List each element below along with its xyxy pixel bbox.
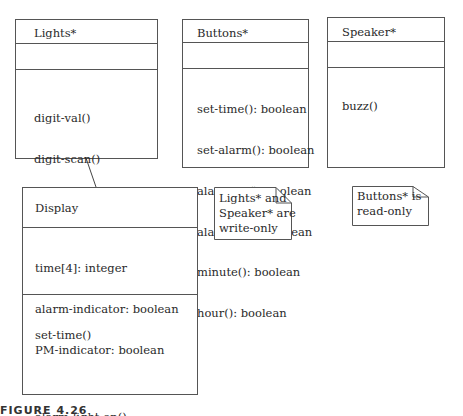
class-lights-operations-divider [16, 69, 157, 70]
operation: digit-val() [34, 112, 126, 126]
class-buttons-operations-divider [183, 68, 308, 69]
note-read-only-text: Buttons* is read-only [357, 189, 421, 219]
class-buttons-name: Buttons* [197, 26, 248, 40]
class-display-attributes-divider [23, 227, 197, 228]
operation: set-time() [35, 329, 127, 343]
attribute: time[4]: integer [35, 262, 179, 276]
note-write-only-text: Lights* and Speaker* are write-only [219, 191, 296, 236]
class-lights[interactable]: Lights* digit-val() digit-scan() alarm-o… [15, 19, 158, 159]
class-display-operations: set-time() alarm-light-on() alarm-light-… [35, 302, 127, 416]
operation: set-time(): boolean [197, 103, 314, 117]
class-speaker-operations: buzz() [342, 73, 378, 141]
figure-caption: FIGURE 4.26 [0, 404, 88, 416]
operation: buzz() [342, 100, 378, 114]
class-speaker[interactable]: Speaker* buzz() [327, 17, 445, 168]
class-display[interactable]: Display time[4]: integer alarm-indicator… [22, 187, 198, 395]
class-speaker-attributes-divider [328, 41, 444, 42]
class-lights-attributes-divider [16, 43, 157, 44]
class-speaker-name: Speaker* [342, 25, 396, 39]
operation-spacer [35, 370, 127, 384]
note-read-only[interactable]: Buttons* is read-only [352, 186, 429, 226]
class-speaker-operations-divider [328, 67, 444, 68]
class-buttons-attributes-divider [183, 42, 308, 43]
class-lights-name: Lights* [34, 26, 76, 40]
operation: hour(): boolean [197, 307, 314, 321]
note-write-only[interactable]: Lights* and Speaker* are write-only [214, 187, 292, 240]
operation: minute(): boolean [197, 266, 314, 280]
operation: digit-scan() [34, 153, 126, 167]
class-display-name: Display [35, 201, 78, 215]
class-buttons[interactable]: Buttons* set-time(): boolean set-alarm()… [182, 19, 309, 168]
operation: set-alarm(): boolean [197, 144, 314, 158]
class-display-operations-divider [23, 294, 197, 295]
